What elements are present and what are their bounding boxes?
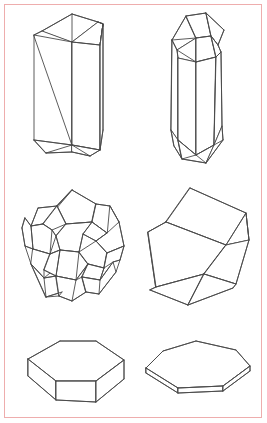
crystal-forms-plate: [0, 0, 267, 423]
rhombohedron: [148, 188, 249, 305]
hexagonal-tablet-thick-front-face: [56, 381, 96, 402]
pentagonal-trapezohedron-face-bottom-center: [56, 276, 86, 301]
hexagonal-plate-thin: [146, 341, 250, 393]
crystal-drawing-canvas: [0, 0, 267, 423]
pentagonal-trapezohedron: [22, 190, 124, 301]
hexagonal-tablet-thick: [28, 341, 124, 402]
hexagonal-prism-pyramid-terminated-prism-face-front-left: [178, 58, 196, 155]
hexagonal-prism-upper-left-front-left-face: [34, 31, 72, 145]
hexagonal-prism-upper-left-front-right-face: [72, 42, 100, 150]
rhombohedron-edge-right-outer: [246, 213, 249, 240]
hexagonal-prism-pyramid-terminated: [171, 13, 224, 163]
figures-group: [22, 13, 250, 402]
hexagonal-prism-upper-left: [34, 14, 103, 156]
hexagonal-prism-pyramid-terminated-prism-face-front-right: [196, 57, 216, 155]
pentagonal-trapezohedron-outline-m: [25, 246, 31, 264]
pentagonal-trapezohedron-outline-f: [116, 260, 120, 272]
